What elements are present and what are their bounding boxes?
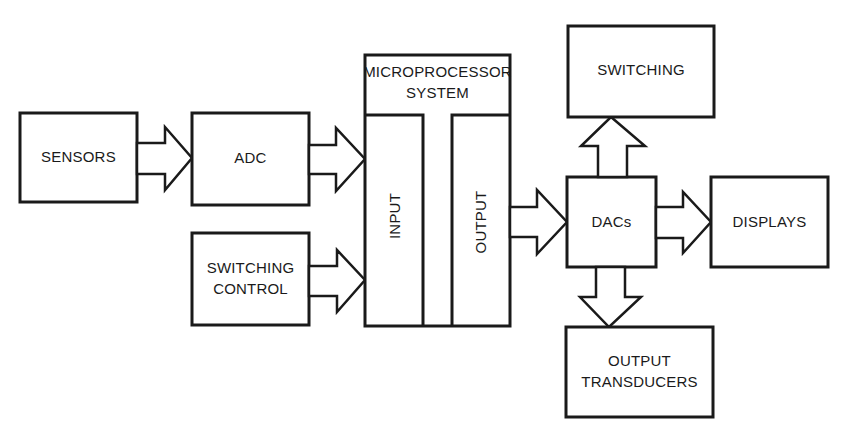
dacs-block: DACs <box>567 177 656 267</box>
arrow-dacs-to-output-transducers-icon <box>580 267 641 327</box>
output-transducers-label-line2: TRANSDUCERS <box>581 373 697 390</box>
displays-block: DISPLAYS <box>711 177 828 267</box>
output-transducers-label-line1: OUTPUT <box>608 352 671 369</box>
arrow-dacs-to-switching-icon <box>581 117 645 177</box>
dacs-label: DACs <box>592 213 632 230</box>
sensors-block: SENSORS <box>20 113 137 202</box>
arrow-switching-control-to-microprocessor-icon <box>309 250 365 312</box>
arrow-microprocessor-to-dacs-icon <box>510 190 567 254</box>
arrow-sensors-to-adc-icon <box>137 127 192 190</box>
switching-control-label-line2: CONTROL <box>213 280 288 297</box>
block-diagram: SENSORS ADC SWITCHING CONTROL MICROPROCE… <box>0 0 845 444</box>
arrow-dacs-to-displays-icon <box>656 192 711 253</box>
switching-label: SWITCHING <box>597 61 685 78</box>
adc-block: ADC <box>192 113 309 205</box>
microprocessor-system-block: MICROPROCESSOR SYSTEM INPUT OUTPUT <box>363 55 512 326</box>
switching-block: SWITCHING <box>568 26 714 117</box>
microprocessor-label-line2: SYSTEM <box>406 84 469 101</box>
switching-control-block: SWITCHING CONTROL <box>192 233 309 325</box>
displays-label: DISPLAYS <box>733 213 807 230</box>
arrow-adc-to-microprocessor-icon <box>309 128 365 191</box>
output-column-label: OUTPUT <box>472 191 489 254</box>
adc-label: ADC <box>234 149 266 166</box>
sensors-label: SENSORS <box>41 148 116 165</box>
switching-control-label-line1: SWITCHING <box>207 259 295 276</box>
output-transducers-block: OUTPUT TRANSDUCERS <box>566 327 713 417</box>
input-column-label: INPUT <box>386 193 403 239</box>
microprocessor-label-line1: MICROPROCESSOR <box>363 63 512 80</box>
